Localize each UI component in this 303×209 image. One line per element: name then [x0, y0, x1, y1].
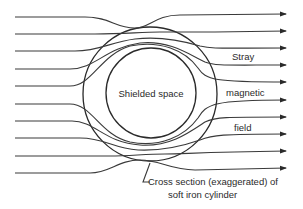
shielded-space-label: Shielded space — [119, 88, 184, 99]
caption-line-2: soft iron cylinder — [168, 189, 237, 200]
magnetic-label: magnetic — [226, 87, 265, 98]
stray-label: Stray — [232, 51, 254, 62]
magnetic-shielding-diagram: Shielded space Stray magnetic field Cros… — [0, 0, 303, 209]
field-label: field — [234, 122, 251, 133]
caption-line-1: Cross section (exaggerated) of — [148, 176, 278, 187]
